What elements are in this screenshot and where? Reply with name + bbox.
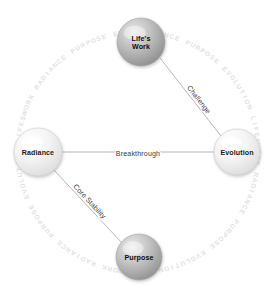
nodes-layer: Life'sWorkEvolutionRadiancePurpose bbox=[0, 0, 276, 291]
node-group: Life'sWorkEvolutionRadiancePurpose bbox=[14, 18, 260, 280]
node-label-lifes-work: Life's bbox=[132, 35, 151, 43]
node-purpose[interactable]: Purpose bbox=[116, 234, 162, 280]
node-radiance[interactable]: Radiance bbox=[14, 128, 62, 176]
node-label-purpose: Purpose bbox=[124, 254, 153, 262]
node-evolution[interactable]: Evolution bbox=[214, 129, 260, 175]
node-label-radiance: Radiance bbox=[22, 149, 54, 157]
node-label-evolution: Evolution bbox=[220, 149, 253, 157]
node-lifes-work[interactable]: Life'sWork bbox=[117, 18, 165, 66]
diagram-canvas: RADIANCEPURPOSEEVOLUTIONLIFESWORKRADIANC… bbox=[0, 0, 276, 291]
node-label-lifes-work-line2: Work bbox=[132, 43, 150, 51]
